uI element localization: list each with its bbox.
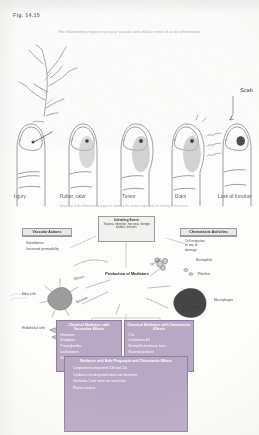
finger-stage-tumor (112, 116, 162, 208)
both-effects-item-1: Cytokines including interleukins and int… (73, 373, 179, 377)
cell-label-endothelial-cells: Endothelial cells (22, 326, 45, 330)
figure-page: Fig. 14.15 The inflammatory response to … (0, 0, 259, 435)
chemotactic-mediator-item-3: Bacterial products (129, 350, 190, 356)
vasoactive-mediators-title: Chemical Mediators with Vasoactive Effec… (57, 321, 121, 333)
figure-top-caption: The inflammatory response to injury: vas… (58, 30, 254, 34)
figure-number: Fig. 14.15 (13, 12, 40, 18)
stage-label-rubor-calor: Rubor, calor (60, 194, 86, 199)
both-effects-item-0: Complement components C3b and C5a (73, 366, 179, 370)
both-effects-list: Complement components C3b and C5a Cytoki… (65, 366, 187, 395)
cell-label-mast-cells: Mast cells (22, 292, 36, 296)
both-effects-title: Mediators with Both Phagocytic and Chemo… (65, 357, 187, 366)
figure-mid-caption: Sequence of the inflammatory response sh… (24, 205, 224, 208)
chemotactic-mediators-title: Chemical Mediators with Chemotactic Effe… (125, 321, 193, 333)
initiating-event-detail: Trauma, infection, necrosis, foreign bod… (99, 222, 154, 231)
stage-label-loss-function: Loss of function (218, 194, 252, 199)
cell-label-macrophages: Macrophages (214, 298, 233, 302)
stage-label-injury: Injury (14, 194, 26, 199)
scab-leader-line (211, 94, 251, 124)
scab-label: Scab (240, 87, 253, 93)
inflammation-stage-illustrations: Scab Injury Rubor, calor Tumor Dolor Los… (0, 44, 259, 212)
stage-label-tumor: Tumor (122, 194, 136, 199)
cell-label-platelets: Platelets (198, 272, 210, 276)
both-effects-mediators-box: Mediators with Both Phagocytic and Chemo… (64, 356, 188, 432)
both-effects-item-2: Interleukin-1 and tumor necrosis factor (73, 379, 179, 383)
cell-label-neutrophils: Neutrophils (196, 258, 212, 262)
stage-label-dolor: Dolor (175, 194, 186, 199)
inflammation-mediator-flowchart: Initiating Event Trauma, infection, necr… (0, 214, 259, 435)
both-effects-item-3: Plasma proteins (73, 386, 179, 390)
chemotactic-mediators-list: C5a Leukotriene B4 Neutrophil chemotacti… (125, 333, 193, 358)
